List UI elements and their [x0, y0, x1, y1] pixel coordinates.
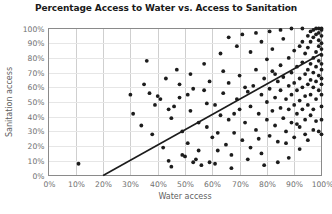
data-point: [189, 109, 193, 113]
data-point: [320, 105, 324, 109]
data-point: [298, 77, 302, 81]
data-point: [249, 50, 253, 54]
data-point: [213, 162, 217, 166]
data-point: [268, 87, 272, 91]
data-point: [260, 93, 264, 97]
data-point: [213, 103, 217, 107]
x-tick-label: 40%: [150, 180, 167, 189]
data-point: [153, 103, 157, 107]
data-point: [279, 88, 283, 92]
data-point: [254, 68, 258, 72]
data-point: [298, 44, 302, 48]
data-point: [309, 62, 313, 66]
y-tick-label: 50%: [28, 98, 45, 107]
data-point: [300, 27, 304, 31]
x-tick-label: 90%: [286, 180, 303, 189]
data-point: [156, 94, 160, 98]
data-point: [202, 88, 206, 92]
data-point: [287, 156, 291, 160]
data-point: [262, 163, 266, 167]
data-point: [295, 112, 299, 116]
x-tick-label: 0%: [43, 180, 55, 189]
data-point: [230, 153, 234, 157]
data-point: [219, 52, 223, 56]
data-point: [257, 137, 261, 141]
data-point: [202, 62, 206, 66]
y-axis-tick-labels: 0%10%20%30%40%50%60%70%80%90%100%: [23, 25, 45, 181]
data-point: [320, 68, 324, 72]
data-point: [216, 131, 220, 135]
data-point: [175, 68, 179, 72]
y-tick-label: 10%: [28, 157, 45, 166]
data-point: [320, 41, 324, 45]
data-point: [270, 69, 274, 73]
data-point: [169, 116, 173, 120]
data-point: [178, 82, 182, 86]
data-point: [317, 130, 321, 134]
data-point: [257, 112, 261, 116]
data-point: [186, 93, 190, 97]
data-point: [197, 149, 201, 153]
data-point: [287, 56, 291, 60]
data-point: [260, 152, 264, 156]
data-point: [145, 59, 149, 63]
data-point: [284, 97, 288, 101]
x-axis-tick-labels: 0%10%20%30%40%50%60%70%80%90%100%: [43, 180, 332, 189]
x-tick-label: 10%: [68, 180, 85, 189]
y-tick-label: 80%: [28, 54, 45, 63]
plot-canvas: 0%10%20%30%40%50%60%70%80%90%100% 0%10%2…: [0, 0, 332, 214]
data-point: [311, 35, 315, 39]
data-point: [238, 107, 242, 111]
data-point: [227, 118, 231, 122]
y-tick-label: 90%: [28, 39, 45, 48]
data-point: [216, 149, 220, 153]
data-point: [306, 103, 310, 107]
data-point: [270, 47, 274, 51]
data-point: [300, 40, 304, 44]
data-point: [320, 77, 324, 81]
data-point: [298, 99, 302, 103]
data-point: [320, 82, 324, 86]
data-point: [292, 49, 296, 53]
data-point: [281, 37, 285, 41]
x-tick-label: 70%: [232, 180, 249, 189]
data-point: [180, 153, 184, 157]
data-point: [232, 112, 236, 116]
data-point: [249, 146, 253, 150]
data-point: [131, 112, 135, 116]
data-point: [309, 93, 313, 97]
data-point: [178, 96, 182, 100]
data-point: [164, 77, 168, 81]
data-point: [243, 85, 247, 89]
data-point: [169, 165, 173, 169]
data-point: [314, 80, 318, 84]
data-point: [320, 62, 324, 66]
data-point: [317, 59, 321, 63]
x-axis-title: Water access: [158, 192, 211, 201]
data-point: [298, 147, 302, 151]
data-point: [167, 107, 171, 111]
data-point: [317, 31, 321, 35]
y-tick-label: 30%: [28, 127, 45, 136]
data-point: [314, 119, 318, 123]
data-point: [311, 128, 315, 132]
data-point: [290, 93, 294, 97]
data-point: [262, 77, 266, 81]
data-point: [295, 122, 299, 126]
data-point: [77, 162, 81, 166]
y-tick-label: 20%: [28, 142, 45, 151]
data-point: [219, 113, 223, 117]
data-point: [194, 157, 198, 161]
data-point: [317, 38, 321, 42]
data-point: [320, 47, 324, 51]
x-tick-label: 100%: [312, 180, 332, 189]
y-tick-label: 40%: [28, 113, 45, 122]
data-point: [273, 72, 277, 76]
data-point: [129, 93, 133, 97]
data-point: [199, 163, 203, 167]
x-tick-label: 80%: [259, 180, 276, 189]
data-point: [279, 106, 283, 110]
data-point: [317, 88, 321, 92]
data-point: [306, 68, 310, 72]
x-tick-label: 60%: [204, 180, 221, 189]
